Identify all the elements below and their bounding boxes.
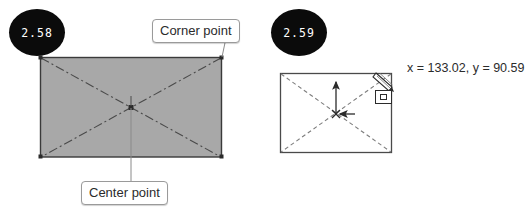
- snap-box-icon: [376, 91, 392, 104]
- callout-corner-point-label: Corner point: [160, 23, 232, 38]
- figure-2-58: 2.58 Corner point Center point: [0, 0, 263, 213]
- corner-marker-top-right: [220, 56, 224, 60]
- step-badge-258: 2.58: [9, 9, 65, 56]
- coordinate-readout: x = 133.02, y = 90.59: [407, 61, 524, 75]
- callout-center-point-label: Center point: [89, 185, 160, 200]
- corner-marker-top-left: [39, 56, 43, 60]
- callout-corner-point: Corner point: [152, 19, 240, 43]
- step-badge-259-label: 2.59: [283, 26, 315, 40]
- figure-2-59: 2.59 x = 133.02, y = 90.59: [263, 0, 527, 213]
- figure-page: 2.58 Corner point Center point: [0, 0, 527, 213]
- step-badge-258-label: 2.58: [21, 26, 53, 40]
- coordinate-readout-text: x = 133.02, y = 90.59: [407, 61, 524, 75]
- callout-center-point: Center point: [81, 181, 168, 205]
- step-badge-259: 2.59: [271, 9, 327, 56]
- corner-marker-bottom-right: [220, 155, 224, 159]
- corner-marker-bottom-left: [39, 155, 43, 159]
